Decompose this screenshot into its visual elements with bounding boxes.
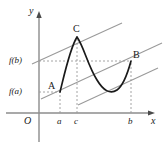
x-axis-label: x [151, 116, 155, 126]
x-tick-label-c: c [74, 117, 78, 126]
tangent-line-lower-right [78, 68, 158, 105]
origin-label: O [24, 116, 31, 126]
x-tick-label-a: a [57, 117, 62, 126]
function-graph-figure: y x O a c b f(b) f(a) A C B [0, 0, 165, 148]
point-label-a: A [48, 81, 55, 91]
y-axis-arrow-icon [36, 11, 41, 18]
y-axis-label: y [29, 6, 33, 16]
y-value-label-fb: f(b) [9, 56, 22, 65]
point-label-b: B [133, 50, 140, 60]
function-curve [60, 37, 131, 92]
point-label-c: C [73, 24, 80, 34]
x-tick-label-b: b [128, 117, 133, 126]
y-value-label-fa: f(a) [9, 87, 22, 96]
